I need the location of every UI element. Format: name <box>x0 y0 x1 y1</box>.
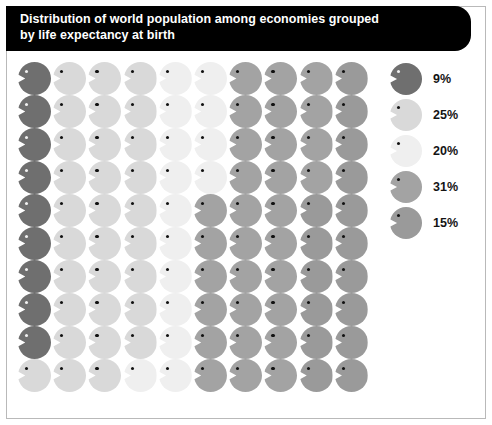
person-eye-icon <box>307 70 310 73</box>
person-icon <box>18 194 51 227</box>
pictogram-cell <box>194 95 229 128</box>
person-eye-icon <box>25 235 28 238</box>
pictogram-cell <box>300 62 335 95</box>
person-icon <box>264 260 297 293</box>
person-eye-icon <box>397 70 400 73</box>
person-icon <box>335 227 368 260</box>
person-eye-icon <box>166 70 169 73</box>
person-icon <box>264 128 297 161</box>
legend-item[interactable]: 25% <box>390 98 486 132</box>
legend-label: 31% <box>433 180 458 194</box>
pictogram-cell <box>18 326 53 359</box>
person-eye-icon <box>236 70 239 73</box>
person-icon <box>159 128 192 161</box>
person-icon <box>300 95 333 128</box>
person-icon <box>53 227 86 260</box>
pictogram-cell <box>264 293 299 326</box>
person-eye-icon <box>236 301 239 304</box>
person-eye-icon <box>25 70 28 73</box>
person-icon <box>229 260 262 293</box>
person-icon <box>18 359 51 392</box>
person-icon <box>194 326 227 359</box>
person-icon <box>88 293 121 326</box>
person-eye-icon <box>307 169 310 172</box>
person-eye-icon <box>131 301 134 304</box>
person-icon <box>159 293 192 326</box>
person-icon <box>88 260 121 293</box>
person-icon <box>53 95 86 128</box>
pictogram-cell <box>335 326 370 359</box>
person-eye-icon <box>60 235 63 238</box>
person-eye-icon <box>131 202 134 205</box>
person-icon <box>390 99 422 131</box>
person-eye-icon <box>201 70 204 73</box>
person-icon <box>300 227 333 260</box>
person-eye-icon <box>25 268 28 271</box>
person-icon <box>300 293 333 326</box>
pictogram-cell <box>335 293 370 326</box>
person-eye-icon <box>166 334 169 337</box>
person-icon <box>300 161 333 194</box>
legend-item[interactable]: 9% <box>390 62 486 96</box>
person-eye-icon <box>342 268 345 271</box>
person-eye-icon <box>166 136 169 139</box>
person-icon <box>194 128 227 161</box>
person-eye-icon <box>25 136 28 139</box>
pictogram-cell <box>53 227 88 260</box>
person-eye-icon <box>397 142 400 145</box>
pictogram-row <box>18 326 370 359</box>
person-eye-icon <box>271 235 274 238</box>
person-icon <box>335 260 368 293</box>
pictogram-cell <box>229 359 264 392</box>
person-icon <box>124 95 157 128</box>
pictogram-cell <box>18 227 53 260</box>
pictogram-cell <box>300 293 335 326</box>
pictogram-cell <box>159 227 194 260</box>
person-icon <box>124 62 157 95</box>
pictogram-cell <box>53 293 88 326</box>
pictogram-cell <box>124 95 159 128</box>
person-eye-icon <box>95 202 98 205</box>
person-eye-icon <box>342 202 345 205</box>
pictogram-row <box>18 260 370 293</box>
person-icon <box>194 260 227 293</box>
person-icon <box>88 326 121 359</box>
pictogram-cell <box>264 260 299 293</box>
person-icon <box>194 161 227 194</box>
person-eye-icon <box>201 169 204 172</box>
person-eye-icon <box>166 367 169 370</box>
pictogram-cell <box>194 194 229 227</box>
pictogram-cell <box>53 194 88 227</box>
person-eye-icon <box>60 70 63 73</box>
legend-label: 20% <box>433 144 458 158</box>
person-icon <box>264 227 297 260</box>
pictogram-cell <box>194 260 229 293</box>
person-icon <box>264 359 297 392</box>
person-eye-icon <box>60 268 63 271</box>
person-icon <box>229 293 262 326</box>
legend-item[interactable]: 15% <box>390 206 486 240</box>
person-icon <box>124 326 157 359</box>
person-eye-icon <box>60 136 63 139</box>
person-icon <box>53 161 86 194</box>
pictogram-figure: Distribution of world population among e… <box>0 0 492 425</box>
pictogram-cell <box>18 359 53 392</box>
person-icon <box>124 359 157 392</box>
pictogram-cell <box>194 293 229 326</box>
pictogram-cell <box>124 62 159 95</box>
person-icon <box>229 62 262 95</box>
person-icon <box>335 293 368 326</box>
pictogram-cell <box>159 260 194 293</box>
legend-item[interactable]: 31% <box>390 170 486 204</box>
pictogram-row <box>18 128 370 161</box>
person-icon <box>159 359 192 392</box>
person-eye-icon <box>166 202 169 205</box>
legend-label: 25% <box>433 108 458 122</box>
person-eye-icon <box>166 235 169 238</box>
person-eye-icon <box>307 334 310 337</box>
legend-item[interactable]: 20% <box>390 134 486 168</box>
person-icon <box>264 194 297 227</box>
pictogram-cell <box>300 359 335 392</box>
person-eye-icon <box>342 169 345 172</box>
person-eye-icon <box>342 136 345 139</box>
